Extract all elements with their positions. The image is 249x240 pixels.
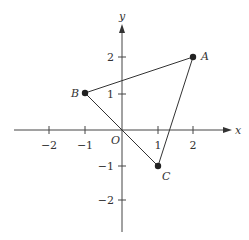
coordinate-diagram: −2 −1 1 2 2 1 −1 −2 x y O A B C <box>0 0 249 240</box>
triangle-abc <box>85 57 193 166</box>
point-a-label: A <box>200 50 209 63</box>
point-a <box>190 54 196 60</box>
x-tick-label: 1 <box>155 139 162 152</box>
point-b <box>82 90 88 96</box>
y-tick-label: −1 <box>98 160 114 173</box>
x-tick-label: −2 <box>41 139 57 152</box>
point-c-label: C <box>162 170 171 183</box>
point-c <box>155 163 161 169</box>
y-tick-label: −2 <box>98 194 114 207</box>
y-axis-label: y <box>118 10 126 23</box>
y-axis-arrow-icon <box>119 24 125 33</box>
x-axis-label: x <box>235 124 242 137</box>
x-axis-arrow-icon <box>223 127 232 133</box>
y-tick-label: 1 <box>107 88 114 101</box>
point-b-label: B <box>70 87 79 100</box>
origin-label: O <box>111 134 120 147</box>
x-tick-label: −1 <box>77 139 93 152</box>
y-tick-label: 2 <box>107 51 114 64</box>
x-tick-label: 2 <box>190 139 197 152</box>
